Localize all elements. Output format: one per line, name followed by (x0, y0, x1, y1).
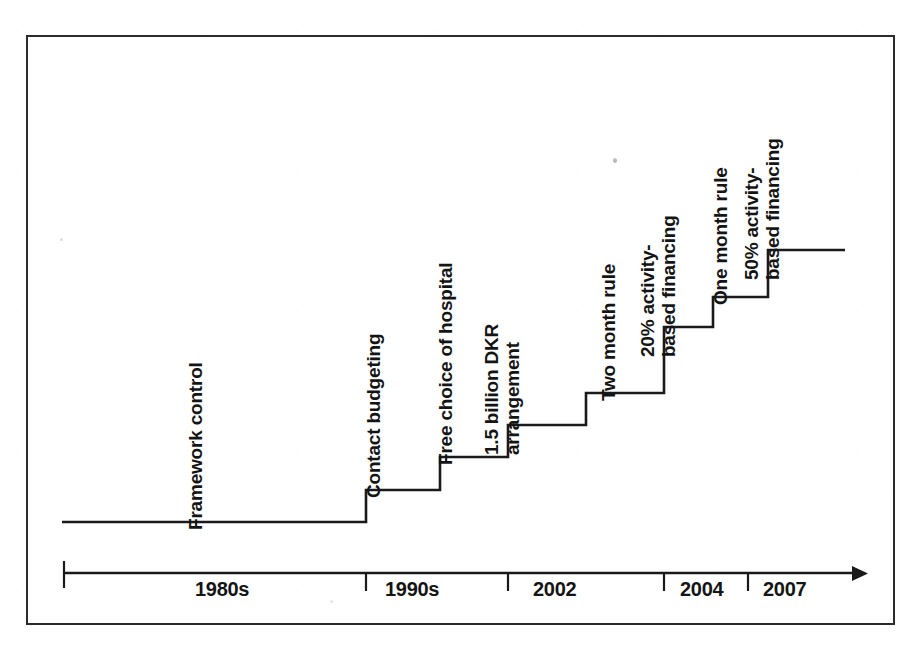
step-label-text: Framework control (185, 362, 206, 530)
step-label-contact-budgeting: Contact budgeting (364, 334, 383, 498)
step-label-15-billion-dkr-arrangement: 1.5 billion DKR arrangement (482, 324, 523, 455)
x-axis-arrowhead (852, 566, 868, 581)
step-label-text-line1: 1.5 billion DKR (481, 324, 502, 455)
step-label-20-percent-activity-based-financing: 20% activity- based financing (638, 215, 679, 357)
step-label-text: Free choice of hospital (435, 263, 456, 465)
step-label-text: Two month rule (598, 264, 619, 401)
step-chart-graphic (0, 0, 922, 652)
step-label-text-line1: 50% activity- (741, 168, 762, 281)
step-label-text: One month rule (710, 167, 731, 305)
step-label-50-percent-activity-based-financing: 50% activity- based financing (742, 138, 783, 280)
figure-page: Framework control Contact budgeting Free… (0, 0, 922, 652)
step-label-text-line2: based financing (762, 138, 783, 280)
x-tick-label-1990s: 1990s (385, 578, 439, 601)
step-label-framework-control: Framework control (186, 362, 205, 530)
step-label-text-line2: based financing (658, 215, 679, 357)
x-tick-label-2002: 2002 (533, 578, 576, 601)
step-label-text-line1: 20% activity- (637, 245, 658, 358)
x-tick-label-2007: 2007 (763, 578, 806, 601)
step-label-text: Contact budgeting (363, 334, 384, 498)
step-label-two-month-rule: Two month rule (599, 264, 618, 401)
x-tick-label-2004: 2004 (680, 578, 723, 601)
x-tick-label-1980s: 1980s (195, 578, 249, 601)
step-label-text-line2: arrangement (502, 324, 523, 455)
step-label-free-choice-of-hospital: Free choice of hospital (436, 263, 455, 465)
step-label-one-month-rule: One month rule (711, 167, 730, 305)
